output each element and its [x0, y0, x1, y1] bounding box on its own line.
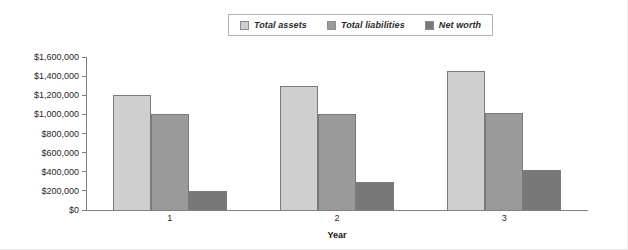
y-axis-tick-label: $600,000 — [41, 148, 79, 158]
y-axis-tick-label: $1,000,000 — [34, 109, 79, 119]
y-axis-tick-label: $1,600,000 — [34, 52, 79, 62]
y-axis-tick-label: $1,400,000 — [34, 71, 79, 81]
bar-group — [421, 57, 588, 210]
bar — [113, 95, 151, 210]
legend-label: Total assets — [254, 20, 307, 30]
plot-area: $1,600,000$1,400,000$1,200,000$1,000,000… — [86, 57, 588, 210]
y-axis-tick-label: $400,000 — [41, 167, 79, 177]
bar — [523, 170, 561, 210]
chart-legend: Total assetsTotal liabilitiesNet worth — [228, 14, 493, 36]
bar — [485, 113, 523, 210]
x-axis-labels: 123 — [86, 213, 588, 223]
bar-group — [253, 57, 420, 210]
y-axis-tick: $200,000 — [41, 186, 86, 196]
x-axis-title: Year — [86, 230, 588, 240]
x-axis-label: 1 — [86, 213, 253, 223]
bar — [356, 182, 394, 210]
y-axis-tick: $0 — [69, 205, 86, 215]
bar — [447, 71, 485, 210]
bar — [151, 114, 189, 210]
legend-entry: Net worth — [425, 20, 481, 30]
bar — [280, 86, 318, 210]
y-axis-tick: $1,200,000 — [34, 90, 86, 100]
bar — [189, 191, 227, 210]
x-axis-label: 3 — [421, 213, 588, 223]
y-axis-tick: $600,000 — [41, 148, 86, 158]
y-axis-tick-label: $800,000 — [41, 129, 79, 139]
legend-label: Total liabilities — [341, 20, 405, 30]
legend-entry: Total assets — [240, 20, 307, 30]
x-axis-line — [86, 210, 588, 211]
legend-swatch-icon — [240, 21, 249, 30]
legend-swatch-icon — [425, 21, 434, 30]
y-axis-tick: $1,400,000 — [34, 71, 86, 81]
y-axis-tick: $400,000 — [41, 167, 86, 177]
y-axis-tick: $1,600,000 — [34, 52, 86, 62]
y-axis-tick-label: $200,000 — [41, 186, 79, 196]
y-axis-tick: $1,000,000 — [34, 109, 86, 119]
y-axis-tick-label: $1,200,000 — [34, 90, 79, 100]
legend-label: Net worth — [439, 20, 481, 30]
bar — [318, 114, 356, 210]
x-axis-label: 2 — [253, 213, 420, 223]
legend-entry: Total liabilities — [327, 20, 405, 30]
y-axis-tick: $800,000 — [41, 129, 86, 139]
bar-groups — [86, 57, 588, 210]
bar-chart: Total assetsTotal liabilitiesNet worth $… — [0, 0, 628, 250]
y-axis-tick-label: $0 — [69, 205, 79, 215]
bar-group — [86, 57, 253, 210]
legend-swatch-icon — [327, 21, 336, 30]
